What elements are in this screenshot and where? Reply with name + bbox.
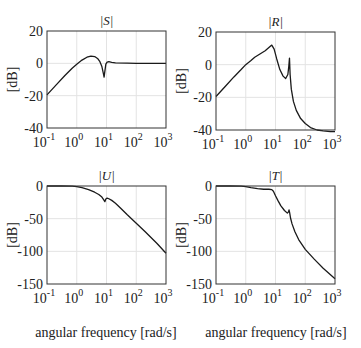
y-axis-label: [dB] xyxy=(174,68,189,94)
x-axis-label-left: angular frequency [rad/s] xyxy=(35,325,176,340)
x-tick-label: 100 xyxy=(64,287,83,306)
x-tick-label: 102 xyxy=(293,133,312,152)
x-tick-label: 100 xyxy=(64,131,83,150)
x-tick-label: 101 xyxy=(94,287,113,306)
y-tick-label: -40 xyxy=(24,121,43,136)
plot-title: |S| xyxy=(100,13,114,28)
x-tick-label: 101 xyxy=(263,133,282,152)
y-tick-label: -50 xyxy=(24,212,43,227)
plot-s-magnitude: |S|200-20-40[dB]10-1100101102103 xyxy=(5,13,173,150)
y-tick-label: -100 xyxy=(17,244,43,259)
y-tick-label: 20 xyxy=(29,24,43,39)
y-tick-label: -150 xyxy=(186,277,212,292)
plot-r-magnitude: |R|200-20-40[dB]10-1100101102103 xyxy=(174,14,342,152)
y-tick-label: 0 xyxy=(205,179,212,194)
plot-u-magnitude: |U|0-50-100-150[dB]10-1100101102103 xyxy=(5,168,173,306)
x-tick-label: 102 xyxy=(124,287,143,306)
x-tick-label: 101 xyxy=(263,287,282,306)
y-tick-label: -50 xyxy=(193,212,212,227)
y-tick-label: -20 xyxy=(24,89,43,104)
x-tick-label: 100 xyxy=(233,287,252,306)
x-tick-label: 102 xyxy=(293,287,312,306)
y-tick-label: -20 xyxy=(193,90,212,105)
y-tick-label: -40 xyxy=(193,123,212,138)
plot-title: |T| xyxy=(268,168,282,183)
x-tick-label: 103 xyxy=(154,287,173,306)
x-axis-label-right: angular frequency [rad/s] xyxy=(205,325,346,340)
x-tick-label: 101 xyxy=(94,131,113,150)
y-axis-label: [dB] xyxy=(5,222,20,248)
y-tick-label: 20 xyxy=(198,25,212,40)
y-tick-label: 0 xyxy=(36,179,43,194)
y-tick-label: 0 xyxy=(205,58,212,73)
y-tick-label: 0 xyxy=(36,56,43,71)
x-tick-label: 100 xyxy=(233,133,252,152)
y-axis-label: [dB] xyxy=(174,222,189,248)
y-tick-label: -100 xyxy=(186,244,212,259)
x-tick-label: 103 xyxy=(154,131,173,150)
bode-magnitude-figure: |S|200-20-40[dB]10-1100101102103|R|200-2… xyxy=(0,0,361,348)
x-tick-label: 102 xyxy=(124,131,143,150)
x-tick-label: 103 xyxy=(323,133,342,152)
x-tick-label: 103 xyxy=(323,287,342,306)
plot-title: |U| xyxy=(98,168,115,183)
plot-title: |R| xyxy=(268,14,283,29)
y-tick-label: -150 xyxy=(17,277,43,292)
plot-t-magnitude: |T|0-50-100-150[dB]10-1100101102103 xyxy=(174,168,342,306)
y-axis-label: [dB] xyxy=(5,67,20,93)
